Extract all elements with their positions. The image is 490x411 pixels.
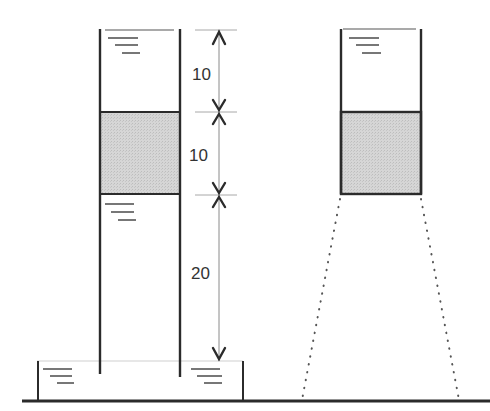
left-tube-block — [100, 112, 180, 194]
right-tube — [302, 29, 459, 400]
dotted-flare-left — [302, 199, 340, 400]
water-level-icon — [349, 38, 381, 53]
water-level-icon — [43, 369, 74, 383]
dimension-label-top: 10 — [192, 66, 211, 83]
right-tube-block — [341, 112, 421, 194]
water-level-icon — [108, 38, 140, 53]
left-tube — [100, 29, 180, 377]
water-level-icon — [105, 204, 136, 220]
water-level-icon — [191, 369, 222, 383]
tube-diagram — [0, 0, 490, 411]
dimension-label-lower: 20 — [191, 265, 210, 282]
basin — [37, 361, 243, 401]
dotted-flare-right — [421, 199, 459, 400]
dimension-label-block: 10 — [189, 147, 208, 164]
